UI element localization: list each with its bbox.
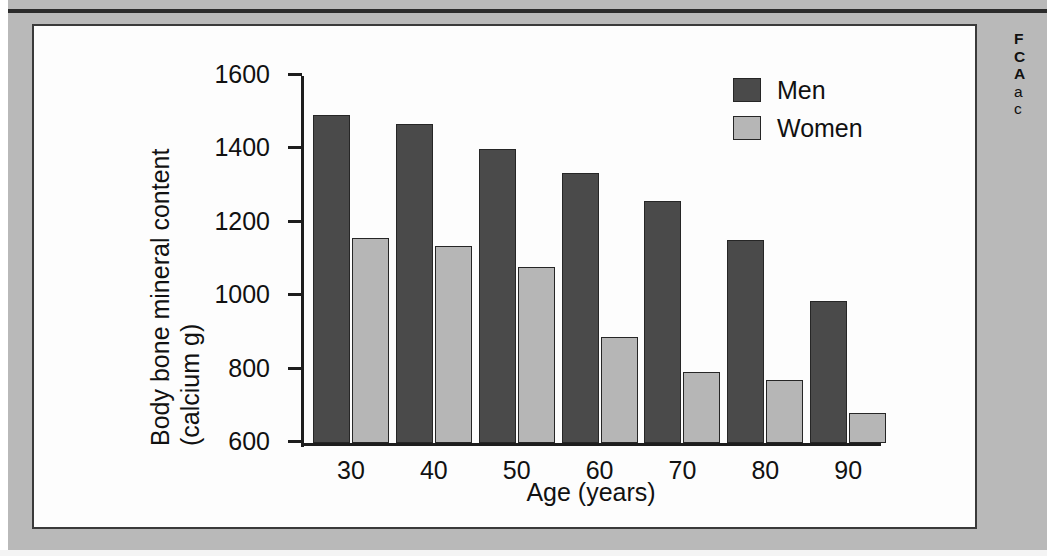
caption-line-2: C (1014, 48, 1047, 66)
caption-line-1: F (1014, 30, 1047, 48)
legend-item-men: Men (733, 71, 863, 109)
bar-women-30 (352, 238, 389, 443)
y-axis-title-line-1: Body bone mineral content (146, 66, 175, 446)
bar-men-70 (644, 201, 681, 443)
legend-label-women: Women (777, 114, 863, 143)
figure-caption: F C A a c (1014, 30, 1047, 230)
caption-line-3: A (1014, 65, 1047, 83)
y-axis-tick-label: 1600 (214, 60, 270, 89)
x-axis-line (301, 443, 881, 446)
bar-men-90 (810, 301, 847, 443)
legend-label-men: Men (777, 76, 826, 105)
bar-women-50 (518, 267, 555, 443)
legend-swatch-women-icon (733, 116, 761, 140)
y-axis-tick-label: 800 (228, 353, 270, 382)
bar-women-60 (601, 337, 638, 443)
x-axis-title: Age (years) (301, 478, 881, 507)
y-axis-title-line-2: (calcium g) (176, 66, 205, 446)
y-axis-title: Body bone mineral content (calcium g) (146, 66, 206, 446)
y-axis-tick-label: 600 (228, 427, 270, 456)
bar-men-50 (479, 149, 516, 443)
y-axis-tick: 1400 (288, 146, 302, 149)
page-bottom-margin (0, 550, 1047, 556)
y-axis-tick: 800 (288, 367, 302, 370)
bar-women-70 (683, 372, 720, 443)
bar-men-30 (313, 115, 350, 443)
y-axis-tick: 600 (288, 440, 302, 443)
chart-legend: Men Women (733, 71, 863, 147)
y-axis-tick: 1600 (288, 73, 302, 76)
bar-men-80 (727, 240, 764, 443)
y-axis-tick-label: 1400 (214, 133, 270, 162)
legend-item-women: Women (733, 109, 863, 147)
bar-women-90 (849, 413, 886, 443)
figure-panel: Body bone mineral content (calcium g) 60… (32, 24, 977, 529)
figure-page: Body bone mineral content (calcium g) 60… (0, 0, 1047, 556)
bar-women-80 (766, 380, 803, 443)
bar-women-40 (435, 246, 472, 443)
y-axis-tick-label: 1000 (214, 280, 270, 309)
page-top-rule (8, 9, 1047, 13)
caption-line-4: a (1014, 83, 1047, 101)
y-axis-tick: 1000 (288, 293, 302, 296)
legend-swatch-men-icon (733, 78, 761, 102)
bar-men-40 (396, 124, 433, 443)
y-axis-line (301, 76, 304, 447)
y-axis-tick: 1200 (288, 220, 302, 223)
bar-men-60 (562, 173, 599, 443)
y-axis-tick-label: 1200 (214, 206, 270, 235)
caption-line-5: c (1014, 100, 1047, 118)
bar-chart: Body bone mineral content (calcium g) 60… (34, 26, 975, 527)
page-left-margin (0, 0, 8, 556)
